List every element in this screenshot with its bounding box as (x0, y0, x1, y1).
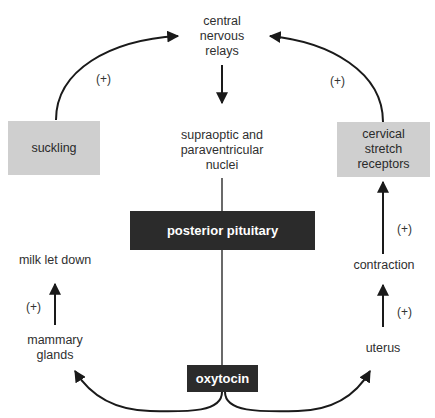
node-suckling: suckling (8, 121, 100, 175)
sign-uterus: (+) (397, 305, 412, 319)
oxytocin-label: oxytocin (196, 371, 249, 386)
node-supraoptic-paraventricular-nuclei: supraoptic and paraventricular nuclei (160, 128, 284, 173)
posterior-pituitary-label: posterior pituitary (167, 223, 278, 238)
node-contraction: contraction (343, 258, 425, 273)
sign-cervical: (+) (397, 222, 412, 236)
suckling-label: suckling (31, 141, 76, 156)
node-central-nervous-relays: central nervous relays (172, 14, 272, 59)
sign-left-arc: (+) (96, 72, 111, 86)
node-cervical-stretch-receptors: cervical stretch receptors (337, 122, 430, 177)
node-posterior-pituitary: posterior pituitary (130, 211, 315, 250)
node-uterus: uterus (353, 341, 413, 356)
node-milk-let-down: milk let down (5, 253, 105, 268)
arrow-suckling-to-central (56, 36, 178, 120)
sign-right-arc: (+) (330, 74, 345, 88)
node-oxytocin: oxytocin (187, 365, 258, 392)
cervical-label: cervical stretch receptors (357, 127, 409, 172)
arrow-cervical-to-central (270, 36, 383, 122)
node-mammary-glands: mammary glands (10, 333, 100, 363)
sign-milk: (+) (26, 300, 41, 314)
